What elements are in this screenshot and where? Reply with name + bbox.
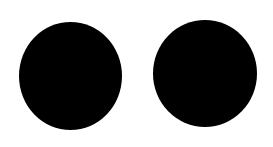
right-circle [153, 20, 257, 127]
left-circle [19, 22, 122, 130]
